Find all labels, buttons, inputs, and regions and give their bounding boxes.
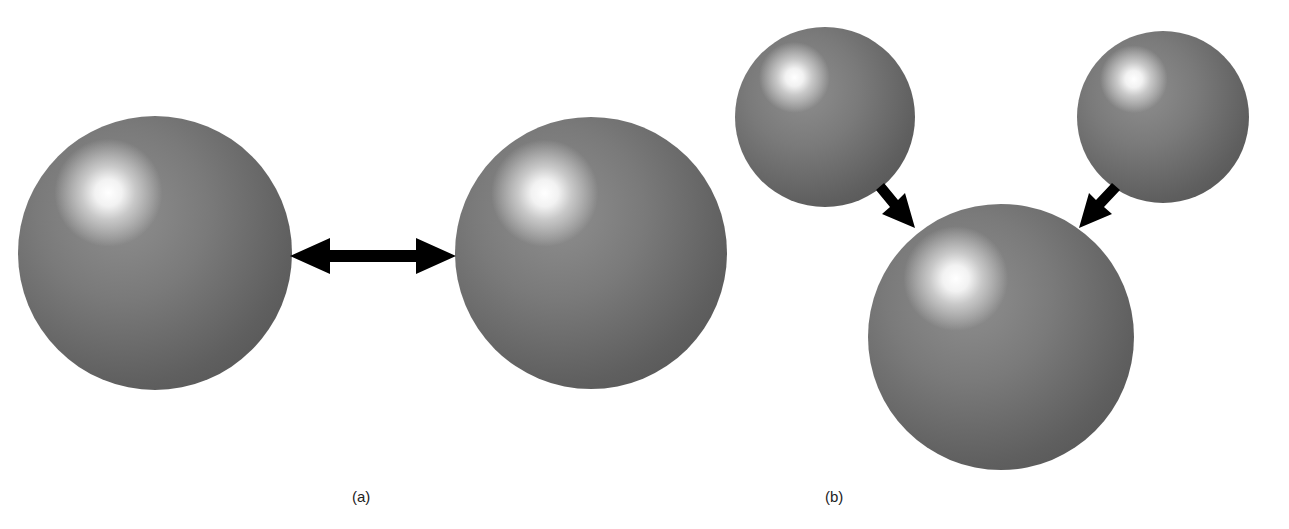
arrows-layer xyxy=(0,0,1289,529)
double-arrow-icon xyxy=(290,238,456,274)
arrow-down-right-icon xyxy=(876,183,915,228)
arrow-down-left-icon xyxy=(1079,183,1120,228)
panel-label-a: (a) xyxy=(352,488,370,505)
panel-label-b: (b) xyxy=(825,488,843,505)
